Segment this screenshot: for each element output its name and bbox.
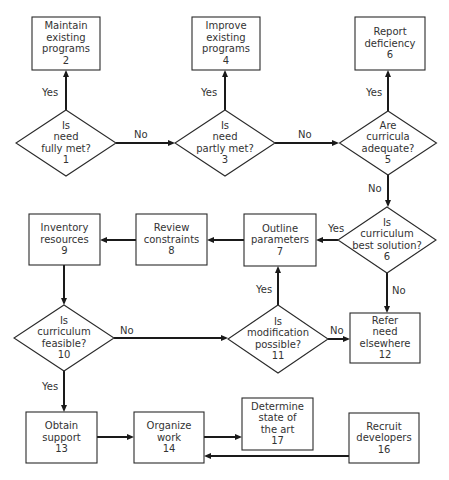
node-text-line: Is: [383, 217, 391, 228]
node-text-line: 4: [223, 55, 229, 66]
edge-label: No: [120, 325, 134, 336]
node-text-line: 11: [272, 350, 285, 361]
arrowhead-icon: [127, 434, 134, 440]
node-text-line: state of: [258, 412, 297, 423]
edge-n9-n10: [61, 265, 67, 305]
node-text-line: Are: [380, 120, 397, 131]
node-text-line: Is: [62, 120, 70, 131]
node-text-line: 7: [277, 246, 283, 257]
node-text-line: Obtain: [45, 420, 78, 431]
edge-label: No: [392, 285, 406, 296]
node-text-line: 2: [63, 55, 69, 66]
node-text-line: constraints: [144, 234, 200, 245]
node-text-line: Report: [373, 26, 406, 37]
arrowhead-icon: [384, 306, 390, 313]
node-text-line: 10: [58, 349, 71, 360]
edge-n7-n8: [207, 237, 244, 243]
node-text-line: 8: [168, 245, 174, 256]
arrowhead-icon: [316, 237, 323, 243]
node-text-line: Is: [60, 315, 68, 326]
node-text-line: 16: [378, 444, 391, 455]
flowchart-canvas: YesNoYesNoYesNoYesNoNoYesNoYes Isneedful…: [0, 0, 449, 480]
node-text-line: partly met?: [196, 143, 254, 154]
process-node-14: Organizework14: [134, 412, 204, 463]
node-text-line: 17: [271, 435, 284, 446]
edge-n11-n7: Yes: [255, 266, 281, 305]
edge-label: No: [368, 183, 382, 194]
arrowhead-icon: [61, 298, 67, 305]
arrowhead-icon: [168, 140, 175, 146]
node-text-line: 3: [222, 154, 228, 165]
edge-n5-n6b: No: [368, 175, 391, 207]
node-text-line: developers: [356, 432, 411, 443]
edge-label: No: [330, 325, 344, 336]
arrowhead-icon: [221, 335, 228, 341]
process-node-6: Reportdeficiency6: [355, 17, 425, 70]
arrowhead-icon: [222, 70, 228, 77]
process-node-9: Inventoryresources9: [29, 214, 100, 265]
node-text-line: resources: [40, 234, 88, 245]
edge-label: Yes: [41, 87, 58, 98]
node-text-line: Organize: [147, 420, 192, 431]
process-node-2: Maintainexistingprograms2: [32, 17, 100, 70]
edge-n1-n3: No: [116, 129, 175, 146]
edge-label: Yes: [327, 223, 344, 234]
edge-n14-n17: [204, 434, 242, 440]
node-text-line: Refer: [372, 315, 399, 326]
node-text-line: 5: [385, 154, 391, 165]
edge-n3-n5: No: [275, 129, 339, 146]
node-text-line: 9: [61, 245, 67, 256]
edge-label: Yes: [200, 87, 217, 98]
node-text-line: curriculum: [360, 228, 413, 239]
node-text-line: Outline: [262, 223, 298, 234]
arrowhead-icon: [332, 140, 339, 146]
decision-node-1: Isneedfully met?1: [16, 110, 116, 176]
node-text-line: deficiency: [365, 38, 416, 49]
edge-n3-n4: Yes: [200, 70, 228, 110]
arrowhead-icon: [385, 200, 391, 207]
node-text-line: existing: [206, 32, 245, 43]
arrowhead-icon: [235, 434, 242, 440]
node-text-line: Maintain: [44, 20, 87, 31]
arrowhead-icon: [207, 237, 214, 243]
edge-n8-n9: [100, 237, 136, 243]
edge-n10-n11: No: [114, 325, 228, 341]
node-text-line: parameters: [251, 234, 309, 245]
node-text-line: 12: [379, 349, 392, 360]
process-node-7: Outlineparameters7: [244, 214, 316, 266]
process-node-12: Referneedelsewhere12: [350, 313, 420, 363]
edge-n6b-n12: No: [384, 273, 406, 313]
arrowhead-icon: [63, 70, 69, 77]
node-text-line: Is: [274, 316, 282, 327]
edge-n13-n14: [97, 434, 134, 440]
node-text-line: programs: [42, 43, 90, 54]
node-text-line: need: [54, 131, 79, 142]
node-text-line: adequate?: [362, 143, 415, 154]
arrowhead-icon: [343, 336, 350, 342]
node-text-line: work: [157, 432, 181, 443]
flowchart-svg: YesNoYesNoYesNoYesNoNoYesNoYes Isneedful…: [0, 0, 449, 480]
node-text-line: Inventory: [41, 222, 89, 233]
edge-n1-n2: Yes: [41, 70, 69, 110]
arrowhead-icon: [275, 266, 281, 273]
node-text-line: possible?: [255, 339, 301, 350]
edge-label: Yes: [41, 381, 58, 392]
edge-n16-n14: [204, 453, 349, 459]
node-text-line: need: [213, 131, 238, 142]
edge-n11-n12: No: [328, 325, 350, 342]
process-node-4: Improveexistingprograms4: [192, 17, 260, 70]
node-text-line: 1: [63, 154, 69, 165]
edge-label: No: [298, 129, 312, 140]
node-text-line: Recruit: [366, 421, 401, 432]
edge-label: No: [134, 129, 148, 140]
process-node-13: Obtainsupport13: [26, 412, 97, 463]
node-text-line: curriculum: [37, 326, 90, 337]
node-text-line: 13: [55, 443, 68, 454]
node-text-line: the art: [261, 424, 295, 435]
node-text-line: 6: [384, 251, 390, 262]
process-node-16: Recruitdevelopers16: [349, 413, 419, 463]
decision-node-5: Arecurriculaadequate?5: [340, 111, 437, 175]
edge-n10-n13: Yes: [41, 371, 67, 412]
node-text-line: 14: [163, 443, 176, 454]
node-text-line: Improve: [205, 20, 246, 31]
